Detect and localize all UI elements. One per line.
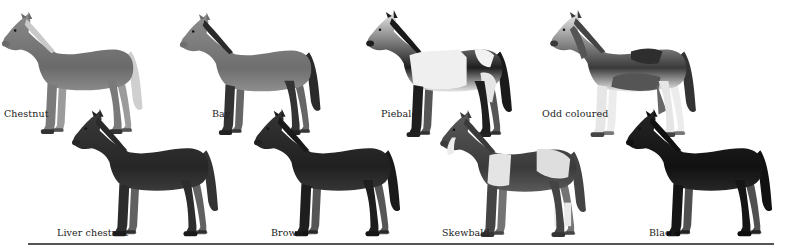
label-bay: Bay — [212, 108, 230, 119]
label-black: Black — [649, 227, 676, 238]
label-piebald: Piebald — [381, 108, 418, 119]
horse-liver_chestnut — [70, 110, 228, 242]
baseline-rule — [28, 243, 774, 245]
label-chestnut: Chestnut — [4, 108, 49, 119]
label-odd_coloured: Odd coloured — [542, 108, 608, 119]
horse-illustration-black — [624, 110, 782, 242]
label-skewbald: Skewbald — [442, 227, 490, 238]
horse-illustration-skewbald — [438, 112, 596, 242]
horse-brown — [252, 110, 410, 242]
horse-black — [624, 110, 782, 242]
horse-skewbald — [438, 112, 596, 242]
label-brown: Brown — [271, 227, 303, 238]
horse-illustration-liver_chestnut — [70, 110, 228, 242]
horse-illustration-brown — [252, 110, 410, 242]
label-liver_chestnut: Liver chestnut — [57, 227, 128, 238]
